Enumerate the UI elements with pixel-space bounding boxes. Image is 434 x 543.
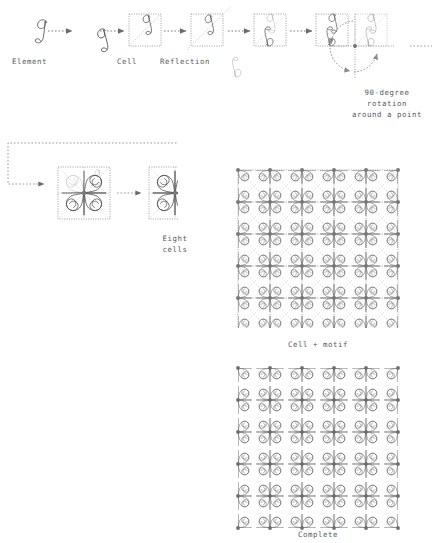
element-glyph (35, 20, 46, 43)
rotation-arc-lower-left (330, 48, 350, 71)
cell-box (129, 14, 161, 46)
label-cell: Cell (117, 57, 137, 68)
label-element: Element (12, 57, 47, 68)
rotation-arc-lower-right (354, 54, 377, 72)
pair-solid-box (316, 13, 348, 47)
label-cell-motif: Cell + motif (258, 340, 378, 351)
diagram-canvas: Element Cell Reflection 90-degree rotati… (0, 0, 434, 543)
rotation-arc-upper-left (331, 21, 353, 44)
label-rotation-line2: rotation (340, 99, 434, 110)
diagram-svg (0, 0, 434, 543)
label-rotation-line1: 90-degree (340, 88, 434, 99)
element-rotated-glyph (94, 28, 113, 53)
label-rotation-line3: around a point (340, 110, 434, 121)
complete-lattice-dots (236, 366, 400, 530)
tiling-complete-pattern (225, 355, 412, 542)
rotation-center-point (353, 44, 357, 48)
motif-partial-box (58, 167, 110, 219)
pair-faint-box (254, 13, 286, 47)
label-eight-line1: Eight (145, 234, 205, 245)
rotation-source-cell (355, 13, 387, 47)
label-complete: Complete (258, 530, 378, 541)
label-eight-line2: cells (145, 245, 205, 256)
tiling-grid-diagonals (238, 170, 398, 330)
label-reflection: Reflection (160, 57, 210, 68)
tiling-complete (178, 328, 434, 543)
row-element-sequence (35, 6, 432, 78)
